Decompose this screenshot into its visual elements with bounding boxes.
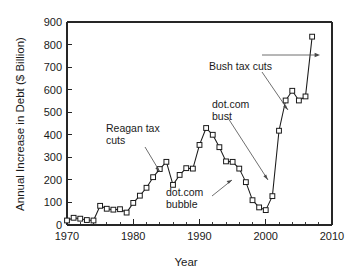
- data-point-marker: [277, 128, 282, 133]
- reagan-tax-cuts-label-line2: cuts: [106, 134, 125, 146]
- y-tick-label: 100: [44, 196, 62, 208]
- data-point-marker: [151, 175, 156, 180]
- data-point-marker: [124, 210, 129, 215]
- bush-leader-line: [262, 72, 288, 110]
- data-point-marker: [283, 98, 288, 103]
- data-point-marker: [250, 198, 255, 203]
- reagan-tax-cuts-label-line1: Reagan tax: [106, 122, 160, 134]
- x-tick-label: 2010: [320, 230, 344, 242]
- data-point-marker: [144, 185, 149, 190]
- data-point-marker: [137, 193, 142, 198]
- data-point-marker: [204, 126, 209, 131]
- x-tick-label: 1980: [121, 230, 145, 242]
- data-point-marker: [65, 218, 70, 223]
- dotcom-bust-leader-arrow: [263, 174, 268, 180]
- x-tick-label: 1970: [55, 230, 79, 242]
- data-point-marker: [243, 180, 248, 185]
- x-axis-title: Year: [174, 256, 197, 268]
- data-point-marker: [263, 208, 268, 213]
- data-point-marker: [224, 159, 229, 164]
- data-point-marker: [71, 215, 76, 220]
- data-point-marker: [184, 166, 189, 171]
- data-point-marker: [78, 216, 83, 221]
- chart-figure: 0100200300400500600700800900 19701980199…: [0, 0, 359, 274]
- data-point-marker: [118, 207, 123, 212]
- x-tick-label: 1990: [187, 230, 211, 242]
- y-axis-ticks: [67, 22, 72, 225]
- dotcom-bubble-label-line1: dot.com: [166, 186, 204, 198]
- annotation-labels: Reagan tax cuts dot.com bubble dot.com b…: [106, 60, 272, 210]
- data-point-marker: [98, 203, 103, 208]
- data-point-marker: [197, 143, 202, 148]
- data-point-marker: [237, 166, 242, 171]
- y-tick-label: 500: [44, 106, 62, 118]
- y-tick-label: 300: [44, 151, 62, 163]
- data-point-marker: [104, 206, 109, 211]
- x-axis-tick-labels: 19701980199020002010: [55, 230, 344, 242]
- data-point-marker: [91, 218, 96, 223]
- debt-line-chart: 0100200300400500600700800900 19701980199…: [0, 0, 359, 274]
- data-point-marker: [290, 88, 295, 93]
- bush-tax-cuts-label: Bush tax cuts: [209, 60, 272, 72]
- dotcom-bust-label-line2: bust: [212, 110, 232, 122]
- data-point-marker: [190, 166, 195, 171]
- dotcom-bust-leader-line: [228, 118, 268, 180]
- data-point-marker: [217, 145, 222, 150]
- data-point-marker: [164, 159, 169, 164]
- y-tick-label: 600: [44, 84, 62, 96]
- data-point-marker: [270, 194, 275, 199]
- data-point-marker: [310, 34, 315, 39]
- y-axis-title: Annual Increase in Debt ($ Billion): [14, 37, 26, 211]
- y-axis-tick-labels: 0100200300400500600700800900: [44, 16, 62, 231]
- y-tick-label: 200: [44, 174, 62, 186]
- data-point-marker: [303, 94, 308, 99]
- x-tick-label: 2000: [254, 230, 278, 242]
- data-point-marker: [84, 218, 89, 223]
- dotcom-bubble-label-line2: bubble: [166, 198, 198, 210]
- data-point-marker: [296, 98, 301, 103]
- bush-span-arrowhead: [315, 53, 320, 57]
- data-point-marker: [230, 159, 235, 164]
- data-point-marker: [111, 207, 116, 212]
- annotation-leaders: [145, 53, 320, 196]
- data-point-marker: [131, 201, 136, 206]
- dotcom-bust-label-line1: dot.com: [212, 98, 250, 110]
- data-point-marker: [257, 205, 262, 210]
- y-tick-label: 700: [44, 61, 62, 73]
- data-point-marker: [177, 173, 182, 178]
- y-tick-label: 800: [44, 39, 62, 51]
- y-tick-label: 900: [44, 16, 62, 28]
- y-tick-label: 400: [44, 129, 62, 141]
- data-point-marker: [210, 132, 215, 137]
